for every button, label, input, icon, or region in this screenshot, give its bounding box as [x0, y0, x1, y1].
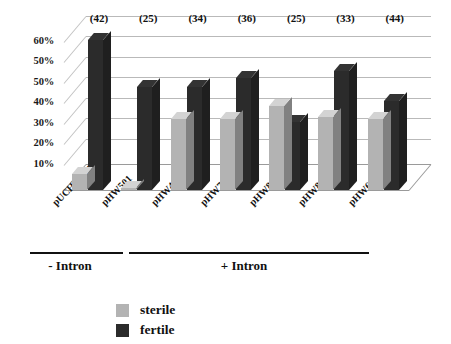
legend-swatch-sterile	[116, 304, 129, 317]
bar-sterile-pHW681	[368, 119, 383, 190]
legend: sterile fertile	[116, 300, 175, 340]
legend-item-fertile: fertile	[116, 320, 175, 340]
bar-sterile-pHW491	[171, 119, 186, 190]
bar-side	[202, 79, 210, 190]
bar-side	[300, 113, 308, 190]
bar-sterile-pHW841	[269, 106, 284, 190]
bar-side	[251, 69, 259, 190]
group-bracket-label-0: - Intron	[48, 258, 91, 274]
count-label-pHW781: (36)	[227, 12, 267, 24]
bar-side	[383, 110, 391, 190]
bar-face	[171, 119, 186, 190]
bar-face	[269, 106, 284, 190]
bar-side	[103, 31, 111, 190]
depth-line-6	[64, 139, 87, 166]
count-label-pHW491: (34)	[178, 12, 218, 24]
legend-item-sterile: sterile	[116, 300, 175, 320]
bar-face	[368, 119, 383, 190]
group-bracket-line-0	[30, 252, 123, 254]
y-axis-tick-6: 10%	[20, 158, 54, 169]
y-axis-tick-0: 60%	[20, 35, 54, 46]
gridline-1	[86, 36, 431, 37]
bar-face	[318, 117, 333, 190]
y-axis-tick-5: 20%	[20, 137, 54, 148]
bar-side	[349, 63, 357, 190]
y-axis-tick-3: 40%	[20, 96, 54, 107]
bar-face	[121, 188, 136, 190]
count-label-pUCH27371: (42)	[79, 12, 119, 24]
count-label-pHW841: (25)	[276, 12, 316, 24]
bar-face	[220, 119, 235, 190]
bar-face	[72, 174, 87, 190]
bar-sterile-pUCH27371	[72, 174, 87, 190]
bar-sterile-pHW501	[121, 188, 136, 190]
gridline-2	[86, 57, 431, 58]
plot-area: 60%50%50%40%30%20%10% (42)(25)(34)(36)(2…	[0, 0, 451, 250]
count-label-pHW501: (25)	[128, 12, 168, 24]
legend-swatch-fertile	[116, 324, 129, 337]
bar-side	[152, 79, 160, 190]
y-axis-tick-2: 50%	[20, 76, 54, 87]
bar-chart: 60%50%50%40%30%20%10% (42)(25)(34)(36)(2…	[0, 0, 451, 344]
legend-label-fertile: fertile	[140, 322, 174, 338]
count-label-pHW681: (44)	[375, 12, 415, 24]
bar-side	[333, 108, 341, 190]
y-axis-tick-1: 50%	[20, 55, 54, 66]
bar-sterile-pHW851	[318, 117, 333, 190]
bar-side	[284, 97, 292, 190]
bar-fertile-pHW501	[137, 87, 152, 190]
count-label-pHW851: (33)	[325, 12, 365, 24]
bar-sterile-pHW781	[220, 119, 235, 190]
floor-right-edge	[409, 164, 432, 191]
legend-label-sterile: sterile	[140, 302, 175, 318]
bar-face	[137, 87, 152, 190]
bar-side	[186, 110, 194, 190]
group-bracket-label-1: + Intron	[221, 258, 268, 274]
bar-side	[399, 92, 407, 190]
group-bracket-line-1	[129, 252, 369, 254]
bar-side	[235, 110, 243, 190]
y-axis-tick-4: 30%	[20, 117, 54, 128]
